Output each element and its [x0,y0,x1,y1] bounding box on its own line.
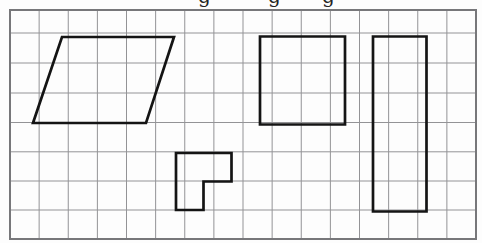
grid-figure-canvas: ggg [0,0,482,243]
title-descender-g: g [198,0,211,8]
worksheet-figure: ggg [0,0,482,243]
title-descender-g: g [268,0,281,8]
title-descender-g: g [322,0,335,8]
